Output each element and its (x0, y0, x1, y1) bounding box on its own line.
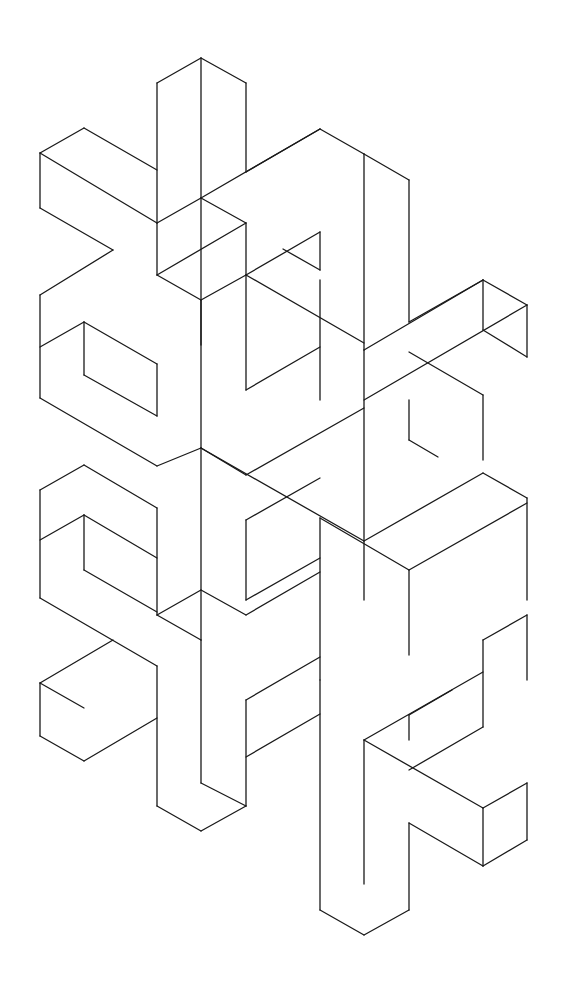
edge-line (157, 448, 201, 466)
edge-line (40, 736, 84, 761)
edge-line (201, 275, 246, 300)
edge-line (246, 478, 320, 520)
edge-line (246, 347, 320, 390)
edge-line (157, 590, 201, 615)
edge-line (40, 683, 84, 708)
edge-line (483, 280, 527, 305)
edge-line (40, 465, 84, 490)
edge-line (40, 128, 84, 153)
edge-line (40, 322, 84, 347)
edge-line (84, 375, 157, 416)
edge-line (201, 783, 246, 806)
edge-line (246, 232, 320, 275)
edge-line (246, 657, 320, 700)
edge-line (201, 806, 246, 831)
edge-line (201, 129, 320, 198)
edge-line (40, 398, 157, 466)
edge-line (483, 840, 527, 866)
edge-line (40, 208, 113, 250)
edge-line (157, 198, 201, 223)
edge-line (201, 448, 364, 541)
edge-line (483, 330, 527, 357)
edge-line (364, 280, 483, 350)
edge-line (157, 806, 201, 831)
edge-line (246, 714, 320, 757)
edge-line (283, 249, 320, 270)
edge-line (364, 910, 409, 935)
edge-line (201, 58, 246, 83)
edge-line (320, 129, 364, 154)
figure-canvas (0, 0, 566, 986)
edge-line (40, 153, 157, 223)
edge-line (246, 408, 364, 475)
edge-line (409, 440, 438, 457)
edge-line (364, 305, 527, 400)
edge-line (84, 465, 157, 508)
edge-line (84, 322, 157, 364)
edge-line (364, 740, 483, 808)
edge-line (84, 128, 157, 170)
edge-line (157, 58, 201, 83)
edge-line (40, 598, 157, 666)
edge-line (409, 727, 483, 770)
edge-line (409, 503, 527, 570)
edge-line (409, 690, 452, 715)
edge-line (84, 570, 157, 612)
edge-line (40, 250, 113, 295)
edge-line (157, 615, 201, 640)
impossible-lattice-drawing (0, 0, 566, 986)
edge-line (246, 275, 364, 343)
edge-line (201, 198, 246, 223)
edge-line (40, 515, 84, 540)
edge-line (483, 473, 527, 498)
edge-line (40, 640, 113, 683)
edge-line (409, 352, 483, 395)
edge-line (157, 275, 201, 300)
edge-line (84, 718, 157, 761)
line-segments (40, 58, 527, 935)
edge-line (483, 783, 527, 808)
edge-line (483, 615, 527, 640)
edge-line (320, 910, 364, 935)
edge-line (201, 590, 246, 615)
edge-line (364, 473, 483, 541)
edge-line (409, 823, 483, 866)
edge-line (364, 154, 409, 180)
edge-line (84, 515, 157, 558)
